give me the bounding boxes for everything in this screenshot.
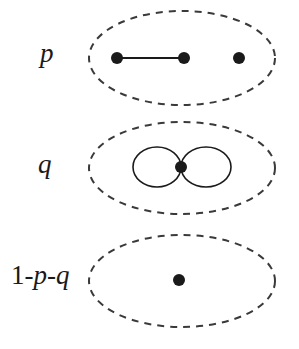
probability-label: p (40, 40, 54, 67)
row-1-p-q-group (89, 235, 275, 327)
vertex (178, 52, 190, 64)
row-q-group (89, 122, 275, 214)
vertex (111, 52, 123, 64)
label-part: 1- (11, 260, 34, 290)
probability-label: 1-p-q (11, 262, 70, 289)
self-loop (181, 147, 231, 187)
probability-label: q (38, 151, 52, 178)
vertex (175, 161, 187, 173)
label-part: q (38, 149, 52, 179)
label-part: q (56, 260, 70, 290)
vertex (173, 274, 185, 286)
label-part: - (47, 260, 56, 290)
label-part: p (40, 38, 54, 68)
row-p-group (89, 11, 275, 105)
self-loop (133, 147, 181, 187)
vertex (233, 52, 245, 64)
label-part: p (34, 260, 48, 290)
